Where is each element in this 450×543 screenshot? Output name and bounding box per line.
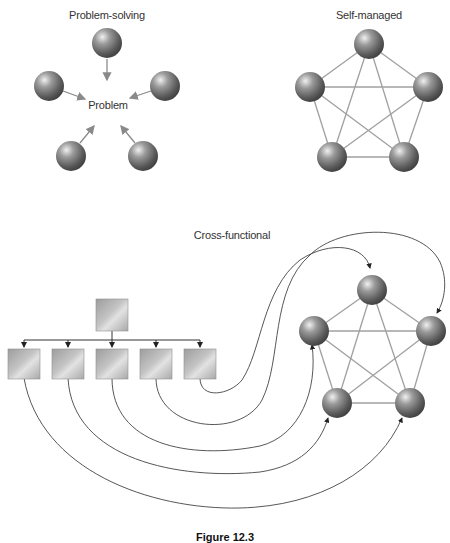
cross-functional-panel [8, 232, 446, 508]
member-sphere [56, 141, 86, 171]
figure-caption: Figure 12.3 [196, 531, 254, 543]
department-box [184, 349, 216, 379]
member-sphere [92, 28, 122, 58]
member-sphere [150, 71, 180, 101]
member-sphere [413, 72, 443, 102]
member-sphere [34, 71, 64, 101]
org-chart-connectors [24, 331, 200, 347]
member-sphere [354, 29, 384, 59]
member-sphere [299, 316, 329, 346]
self-managed-title: Self-managed [336, 9, 402, 21]
cross-functional-links [314, 290, 431, 403]
member-sphere [416, 316, 446, 346]
department-box [8, 349, 40, 379]
self-managed-panel [295, 29, 443, 172]
member-sphere [322, 388, 352, 418]
assignment-curves [24, 232, 445, 508]
department-box [96, 349, 128, 379]
member-sphere [395, 388, 425, 418]
member-sphere [389, 142, 419, 172]
cross-functional-title: Cross-functional [194, 229, 270, 241]
problem-solving-title: Problem-solving [69, 9, 145, 21]
member-sphere [295, 72, 325, 102]
member-sphere [128, 141, 158, 171]
department-box [52, 349, 84, 379]
manager-box [96, 299, 128, 331]
problem-label: Problem [88, 99, 128, 111]
member-sphere [357, 275, 387, 305]
self-managed-members [295, 29, 443, 172]
self-managed-links [310, 44, 428, 157]
cross-functional-members [299, 275, 446, 418]
department-box [140, 349, 172, 379]
member-sphere [317, 142, 347, 172]
